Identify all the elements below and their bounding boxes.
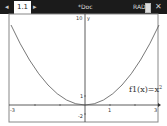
x-max-label: 3 <box>154 107 157 113</box>
function-label[interactable]: f1(x)=x2 <box>129 84 162 94</box>
y-tick-label: 1 <box>80 93 83 99</box>
y-min-label: -2 <box>78 113 83 119</box>
x-tick-label: 1 <box>108 107 111 113</box>
x-min-label: -3 <box>10 107 15 113</box>
y-axis-label: y <box>87 15 90 22</box>
y-max-label: 10 <box>76 15 82 21</box>
graph-area[interactable]: -3 3 1 10 y 1 -2 f1(x)=x2 <box>0 0 167 126</box>
x-axis-arrow-icon <box>158 103 161 107</box>
